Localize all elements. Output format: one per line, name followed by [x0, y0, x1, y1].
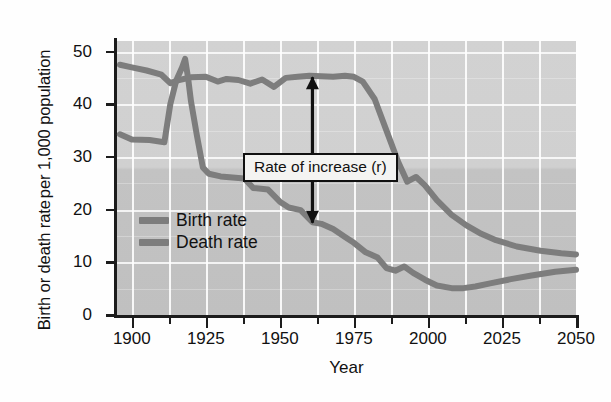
y-tick-label: 30 — [48, 148, 92, 165]
y-tick-label: 0 — [48, 306, 92, 323]
annotation-rate-of-increase: Rate of increase (r) — [243, 153, 398, 182]
legend-item-death-rate: Death rate — [139, 232, 258, 253]
y-tick-label: 10 — [48, 253, 92, 270]
demographic-transition-chart: Birth or death rate per 1,000 population… — [0, 0, 611, 402]
y-tick-label: 20 — [48, 201, 92, 218]
x-tick-major — [206, 317, 209, 328]
x-tick-label: 1900 — [97, 330, 167, 348]
x-tick-major — [280, 317, 283, 328]
x-tick-label: 1925 — [171, 330, 241, 348]
y-tick — [106, 209, 115, 212]
legend-label-death-rate: Death rate — [176, 233, 258, 252]
y-tick — [106, 51, 115, 54]
y-tick — [106, 156, 115, 159]
y-tick-label: 40 — [48, 95, 92, 112]
y-axis-label-line2: per 1,000 population — [35, 50, 54, 198]
y-tick — [106, 261, 115, 264]
x-tick-minor — [317, 317, 320, 324]
x-tick-minor — [391, 317, 394, 324]
x-tick-major — [502, 317, 505, 328]
chart-legend: Birth rate Death rate — [139, 210, 258, 253]
x-tick-minor — [243, 317, 246, 324]
x-tick-minor — [169, 317, 172, 324]
x-tick-major — [428, 317, 431, 328]
y-tick — [106, 103, 115, 106]
legend-item-birth-rate: Birth rate — [139, 210, 258, 231]
x-tick-minor — [539, 317, 542, 324]
y-tick — [106, 314, 115, 317]
x-tick-label: 1950 — [245, 330, 315, 348]
x-tick-major — [354, 317, 357, 328]
x-tick-label: 2050 — [541, 330, 611, 348]
x-tick-label: 2025 — [467, 330, 537, 348]
legend-label-birth-rate: Birth rate — [176, 211, 247, 230]
x-tick-major — [132, 317, 135, 328]
y-tick-label: 50 — [48, 43, 92, 60]
x-tick-label: 2000 — [393, 330, 463, 348]
legend-swatch-death-rate — [139, 239, 169, 246]
x-axis-label: Year — [117, 358, 576, 378]
x-tick-label: 1975 — [319, 330, 389, 348]
x-tick-minor — [465, 317, 468, 324]
x-tick-major — [576, 317, 579, 328]
x-axis-line — [114, 315, 579, 318]
legend-swatch-birth-rate — [139, 217, 169, 224]
